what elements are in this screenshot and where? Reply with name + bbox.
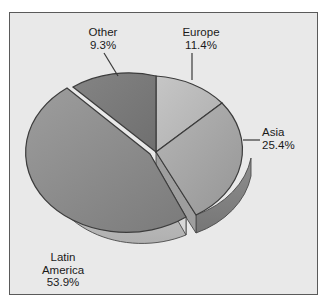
- slice-label-other-name: Other: [72, 26, 134, 39]
- slice-label-europe-percent: 11.4%: [168, 39, 234, 52]
- slice-label-europe: Europe 11.4%: [168, 26, 234, 51]
- slice-label-latin-america: Latin America 53.9%: [26, 251, 100, 289]
- slice-label-asia: Asia 25.4%: [262, 126, 318, 151]
- leader-line-other: [104, 53, 118, 76]
- slice-label-asia-name: Asia: [262, 126, 318, 139]
- slice-label-europe-name: Europe: [168, 26, 234, 39]
- slice-label-asia-percent: 25.4%: [262, 139, 318, 152]
- slice-label-other: Other 9.3%: [72, 26, 134, 51]
- pie-chart-figure: Other 9.3% Europe 11.4% Asia 25.4% Latin…: [0, 0, 329, 308]
- slice-label-latin-america-name-line1: Latin: [26, 251, 100, 264]
- slice-label-latin-america-percent: 53.9%: [26, 276, 100, 289]
- slice-label-latin-america-name-line2: America: [26, 264, 100, 277]
- slice-label-other-percent: 9.3%: [72, 39, 134, 52]
